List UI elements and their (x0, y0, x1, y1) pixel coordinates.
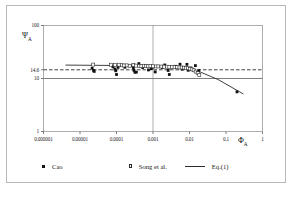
data-point-cao (167, 69, 170, 72)
figure-container: 100 14.6 10 1 0.000001 0.00001 0.0001 0.… (0, 0, 296, 198)
legend-label-song: Song et al. (139, 163, 167, 170)
data-point-cao (135, 71, 138, 74)
y-tick-label-14-6: 14.6 (0, 67, 39, 73)
x-axis-title: ΦA (238, 136, 248, 147)
data-point-cao (186, 63, 189, 66)
data-point-cao (93, 70, 96, 73)
data-point-song (134, 64, 137, 67)
legend-item-eq1: Eq.(1) (185, 163, 229, 170)
data-point-cao (194, 64, 197, 67)
data-point-song (125, 64, 128, 67)
data-point-song (109, 63, 112, 66)
data-point-song (162, 65, 165, 68)
y-tick-label-10: 10 (0, 75, 39, 81)
chart-legend: Cao Song et al. Eq.(1) (18, 158, 280, 174)
line-marker-icon (185, 166, 205, 167)
y-tick-label-1: 1 (0, 128, 39, 134)
data-point-cao (179, 63, 182, 66)
filled-square-marker-icon (42, 165, 45, 168)
data-point-song (117, 63, 120, 66)
legend-item-cao: Cao (42, 163, 63, 170)
data-point-cao (154, 71, 157, 74)
data-point-song (92, 63, 95, 66)
data-point-cao (115, 73, 118, 76)
open-square-marker-icon (129, 164, 132, 167)
data-point-song (198, 74, 201, 77)
data-point-song (157, 65, 160, 68)
y-axis-title-subscript: A (28, 36, 32, 42)
data-point-song (113, 63, 116, 66)
data-point-cao (168, 73, 171, 76)
data-point-song (128, 64, 131, 67)
legend-label-eq1: Eq.(1) (212, 163, 229, 170)
data-point-cao (114, 69, 117, 72)
data-point-cao (147, 69, 150, 72)
data-point-cao (236, 90, 239, 93)
x-axis-title-subscript: A (244, 141, 248, 147)
y-axis-title: ΨA (22, 31, 32, 42)
legend-item-song: Song et al. (129, 163, 167, 170)
legend-label-cao: Cao (52, 163, 63, 170)
data-point-song (152, 65, 155, 68)
y-tick-label-100: 100 (0, 22, 39, 28)
